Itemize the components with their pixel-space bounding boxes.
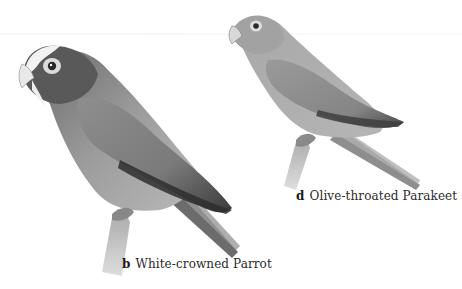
bird-d-olive-throated-parakeet	[229, 16, 420, 190]
caption-name-d: Olive-throated Parakeet	[310, 189, 458, 203]
foot-b	[112, 208, 134, 221]
caption-letter-b: b	[122, 257, 131, 271]
caption-white-crowned-parrot: bWhite-crowned Parrot	[122, 257, 272, 271]
eye-b	[48, 62, 56, 70]
illustration-canvas: bWhite-crowned Parrot dOlive-throated Pa…	[0, 0, 462, 289]
birds-illustration	[0, 0, 462, 289]
caption-name-b: White-crowned Parrot	[136, 257, 272, 271]
caption-olive-throated-parakeet: dOlive-throated Parakeet	[296, 189, 457, 203]
foot-d	[296, 134, 316, 147]
eye-d	[253, 23, 259, 29]
caption-letter-d: d	[296, 189, 305, 203]
bird-b-white-crowned-parrot	[19, 46, 240, 276]
